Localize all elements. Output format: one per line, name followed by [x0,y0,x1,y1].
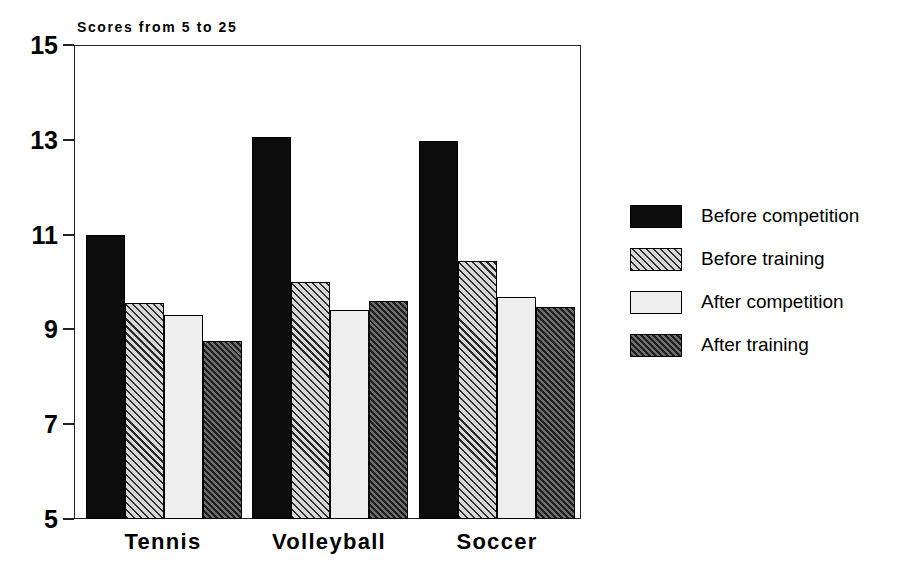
bar-chart: Scores from 5 to 25 151311975 TennisVoll… [0,0,919,573]
legend-item-before-training[interactable]: Before training [630,247,910,290]
y-axis-tick-label: 9 [44,314,58,344]
y-axis-tick-mark [63,518,74,520]
legend-label: After competition [701,289,844,315]
y-axis-tick-mark [63,44,74,46]
y-axis-tick-label: 11 [32,220,58,250]
legend-item-after-training[interactable]: After training [630,333,910,376]
x-axis-label-soccer: Soccer [407,529,587,555]
chart-legend: Before competitionBefore trainingAfter c… [630,204,910,376]
y-axis-tick-mark [63,423,74,425]
x-axis-label-tennis: Tennis [73,529,253,555]
legend-label: Before competition [701,203,859,229]
bar-soccer-after-competition[interactable] [497,297,536,519]
bar-volleyball-after-competition[interactable] [330,310,369,519]
y-axis-tick-label: 15 [30,30,58,60]
bar-tennis-after-competition[interactable] [164,315,203,519]
legend-item-after-competition[interactable]: After competition [630,290,910,333]
y-axis-tick-mark [63,139,74,141]
legend-swatch-after-competition [630,291,682,314]
legend-label: Before training [701,246,825,272]
legend-label: After training [701,332,809,358]
y-axis: 151311975 [0,0,74,573]
legend-swatch-after-training [630,334,682,357]
bar-soccer-before-training[interactable] [458,261,497,519]
y-axis-tick-mark [63,234,74,236]
bar-tennis-before-training[interactable] [125,303,164,519]
y-axis-tick-label: 7 [44,409,58,439]
bar-volleyball-after-training[interactable] [369,301,408,519]
legend-swatch-before-competition [630,205,682,228]
y-axis-tick-label: 5 [44,504,58,534]
bar-soccer-after-training[interactable] [536,307,575,519]
x-axis-label-volleyball: Volleyball [239,529,419,555]
legend-swatch-before-training [630,248,682,271]
bar-volleyball-before-competition[interactable] [252,137,291,519]
y-axis-tick-mark [63,328,74,330]
legend-item-before-competition[interactable]: Before competition [630,204,910,247]
bar-soccer-before-competition[interactable] [419,141,458,519]
y-axis-tick-label: 13 [30,125,58,155]
chart-title: Scores from 5 to 25 [77,19,237,35]
bar-volleyball-before-training[interactable] [291,282,330,519]
bar-tennis-after-training[interactable] [203,341,242,519]
bar-tennis-before-competition[interactable] [86,235,125,519]
